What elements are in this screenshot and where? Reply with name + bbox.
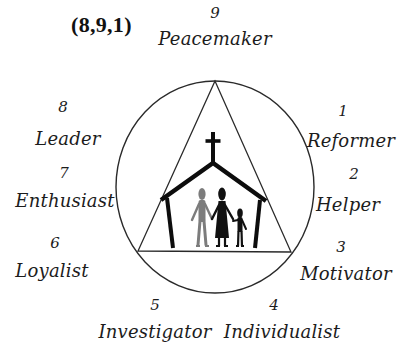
type-5-number: 5 xyxy=(150,296,160,314)
type-6-name: Loyalist xyxy=(15,260,88,281)
type-8-number: 8 xyxy=(58,98,68,116)
type-1-number: 1 xyxy=(338,102,348,120)
type-4-name: Individualist xyxy=(224,321,340,342)
church-wall-right xyxy=(255,200,260,248)
type-8-name: Leader xyxy=(35,128,100,149)
type-9-number: 9 xyxy=(210,4,220,22)
church-with-family-icon xyxy=(161,132,266,248)
type-2-number: 2 xyxy=(349,165,359,183)
type-2-name: Helper xyxy=(316,194,380,215)
type-5-name: Investigator xyxy=(98,321,211,342)
man-figure-icon xyxy=(192,188,212,246)
type-4-number: 4 xyxy=(269,296,279,314)
cross-icon xyxy=(206,132,221,164)
woman-figure-icon xyxy=(212,188,233,247)
type-3-name: Motivator xyxy=(300,263,392,284)
church-wall-left xyxy=(167,198,173,248)
type-6-number: 6 xyxy=(50,234,60,252)
type-1-name: Reformer xyxy=(307,130,395,151)
child-figure-icon xyxy=(233,209,246,247)
type-9-name: Peacemaker xyxy=(158,28,271,49)
type-7-name: Enthusiast xyxy=(15,190,114,211)
type-7-number: 7 xyxy=(59,164,69,182)
type-3-number: 3 xyxy=(336,238,346,256)
enneagram-circle xyxy=(116,81,314,293)
church-roof xyxy=(161,163,266,201)
